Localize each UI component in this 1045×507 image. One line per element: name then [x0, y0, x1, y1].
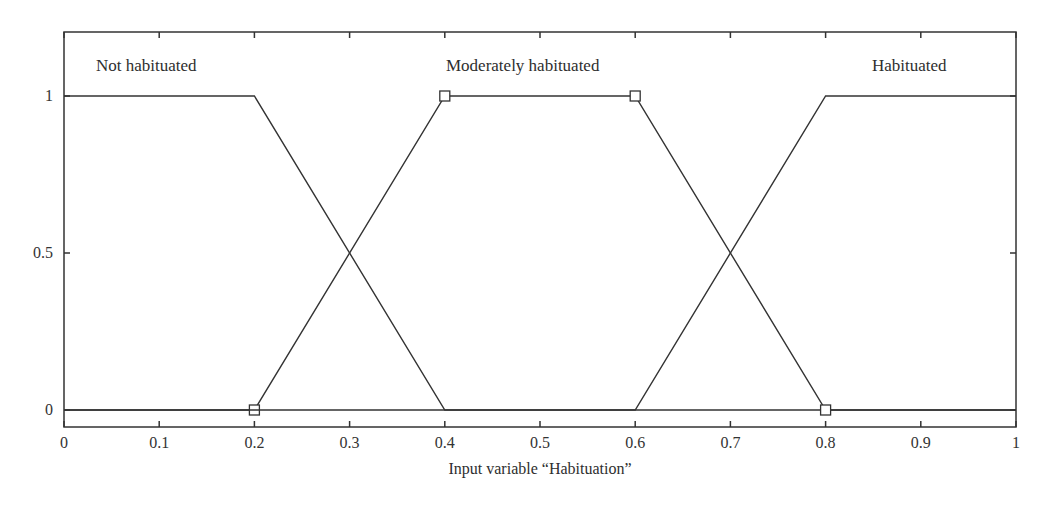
square-marker-icon	[821, 405, 831, 415]
x-tick-label: 0.6	[625, 434, 645, 452]
y-tick-label: 1	[45, 87, 53, 105]
x-tick-label: 0.2	[244, 434, 264, 452]
x-tick-label: 0.9	[911, 434, 931, 452]
x-tick-label: 0.7	[720, 434, 740, 452]
x-tick-label: 1	[1012, 434, 1020, 452]
series-line-not-habituated	[64, 96, 1016, 410]
square-marker-icon	[630, 91, 640, 101]
x-tick-label: 0.8	[816, 434, 836, 452]
x-tick-label: 0.5	[530, 434, 550, 452]
x-tick-label: 0	[60, 434, 68, 452]
plot-area	[0, 0, 1045, 507]
x-tick-label: 0.4	[435, 434, 455, 452]
y-tick-label: 0.5	[33, 244, 53, 262]
x-tick-label: 0.1	[149, 434, 169, 452]
label-moderately-habituated: Moderately habituated	[446, 56, 599, 76]
square-marker-icon	[440, 91, 450, 101]
label-not-habituated: Not habituated	[96, 56, 197, 76]
series-line-moderately-habituated	[64, 96, 1016, 410]
x-axis-label: Input variable “Habituation”	[448, 460, 631, 478]
x-tick-label: 0.3	[340, 434, 360, 452]
y-tick-label: 0	[45, 401, 53, 419]
series-line-habituated	[64, 96, 1016, 410]
label-habituated: Habituated	[872, 56, 947, 76]
plot-frame	[64, 32, 1016, 427]
